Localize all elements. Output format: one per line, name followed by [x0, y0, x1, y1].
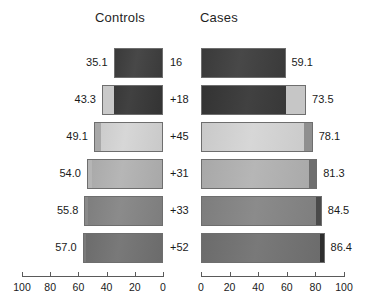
control-bar	[84, 196, 163, 226]
controls-axis-tick-label: 100	[7, 281, 37, 293]
case-bar-increment-segment	[316, 197, 321, 225]
case-bar-increment-segment	[304, 123, 312, 151]
case-bar-increment-segment	[286, 86, 306, 114]
cases-axis-tick	[201, 272, 202, 277]
case-value-label: 59.1	[292, 57, 313, 68]
case-value-label: 73.5	[312, 94, 333, 105]
cases-axis-tick	[315, 272, 316, 277]
control-value-label: 57.0	[55, 242, 76, 253]
control-value-label: 55.8	[57, 205, 78, 216]
control-bar	[83, 233, 163, 263]
control-value-label: 43.3	[75, 94, 96, 105]
control-bar-increment-segment	[103, 86, 114, 114]
chart-row: 43.3+1873.5	[0, 85, 373, 115]
controls-axis-tick-label: 60	[63, 281, 93, 293]
chart-row: 57.0+5286.4	[0, 233, 373, 263]
center-increment-label: +33	[170, 205, 189, 216]
case-bar	[201, 233, 325, 263]
control-bar	[114, 48, 163, 78]
case-bar-increment-segment	[320, 234, 324, 262]
case-bar	[201, 122, 313, 152]
column-header-controls: Controls	[95, 10, 145, 25]
center-increment-label: +45	[170, 131, 189, 142]
case-value-label: 86.4	[331, 242, 352, 253]
controls-axis-tick	[163, 272, 164, 277]
control-bar-increment-segment	[84, 234, 86, 262]
control-bar-increment-segment	[85, 197, 88, 225]
case-bar-increment-segment	[309, 160, 316, 188]
cases-axis-tick	[344, 272, 345, 277]
case-bar	[201, 85, 306, 115]
center-increment-label: +52	[170, 242, 189, 253]
controls-axis-tick-label: 0	[148, 281, 178, 293]
cases-axis-tick	[230, 272, 231, 277]
cases-axis-tick	[287, 272, 288, 277]
cases-axis-tick	[258, 272, 259, 277]
case-value-label: 81.3	[323, 168, 344, 179]
chart-row: 55.8+3384.5	[0, 196, 373, 226]
center-increment-label: 16	[170, 57, 182, 68]
controls-axis-tick	[135, 272, 136, 277]
center-increment-label: +18	[170, 94, 189, 105]
cases-axis-tick-label: 80	[300, 281, 330, 293]
control-bar	[87, 159, 163, 189]
case-value-label: 78.1	[319, 131, 340, 142]
case-bar	[201, 159, 317, 189]
cases-axis-tick-label: 60	[272, 281, 302, 293]
chart-row: 54.0+3181.3	[0, 159, 373, 189]
case-value-label: 84.5	[328, 205, 349, 216]
controls-axis-tick-label: 20	[120, 281, 150, 293]
case-bar	[201, 48, 286, 78]
chart-row: 49.1+4578.1	[0, 122, 373, 152]
center-increment-label: +31	[170, 168, 189, 179]
control-bar-increment-segment	[95, 123, 102, 151]
cases-axis-tick-label: 100	[329, 281, 359, 293]
column-header-cases: Cases	[200, 10, 238, 25]
controls-axis-tick-label: 80	[35, 281, 65, 293]
controls-axis-tick	[22, 272, 23, 277]
mirrored-bar-chart: Controls Cases 35.11659.143.3+1873.549.1…	[0, 0, 373, 303]
control-bar	[94, 122, 163, 152]
cases-axis-tick-label: 0	[186, 281, 216, 293]
controls-axis-tick	[50, 272, 51, 277]
controls-axis-tick-label: 40	[92, 281, 122, 293]
control-bar-increment-segment	[88, 160, 92, 188]
control-bar	[102, 85, 163, 115]
cases-axis-tick-label: 20	[215, 281, 245, 293]
case-bar	[201, 196, 322, 226]
control-value-label: 49.1	[66, 131, 87, 142]
controls-axis-tick	[78, 272, 79, 277]
cases-axis-line	[201, 276, 344, 277]
controls-axis-line	[22, 276, 163, 277]
chart-row: 35.11659.1	[0, 48, 373, 78]
control-value-label: 54.0	[59, 168, 80, 179]
cases-axis-tick-label: 40	[243, 281, 273, 293]
control-value-label: 35.1	[86, 57, 107, 68]
controls-axis-tick	[107, 272, 108, 277]
